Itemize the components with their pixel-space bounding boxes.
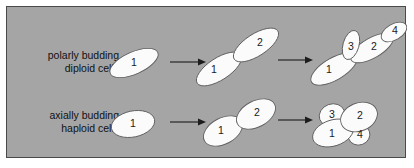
haploid-stage2-cell-2-label: 2 <box>254 106 260 118</box>
haploid-stage3-cell-4-label: 4 <box>357 128 363 140</box>
diploid-stage2: 1 2 <box>191 22 284 93</box>
diploid-arrow-1-head <box>198 59 206 66</box>
haploid-stage1-cell-1: 1 <box>109 107 157 142</box>
figure-panel: polarly budding diploid cells axially bu… <box>6 6 406 158</box>
haploid-stage3: 3 1 2 4 <box>309 97 382 152</box>
diploid-stage3: 1 2 3 4 <box>306 18 407 91</box>
diploid-stage2-cell-1-label: 1 <box>211 63 217 75</box>
diploid-stage3-cell-3-label: 3 <box>348 40 354 52</box>
haploid-arrow-1 <box>170 119 206 126</box>
haploid-stage3-cell-1-label: 1 <box>329 127 335 139</box>
diploid-stage2-cell-2-body <box>228 22 284 69</box>
diploid-stage1-cell-1: 1 <box>106 42 162 83</box>
diploid-arrow-2 <box>278 57 313 64</box>
haploid-stage2: 1 2 <box>198 93 280 153</box>
diagram-canvas: 1 1 2 1 2 <box>7 7 407 159</box>
diploid-arrow-1 <box>170 59 206 66</box>
diploid-stage3-cell-2-label: 2 <box>371 40 377 52</box>
haploid-stage2-cell-1-label: 1 <box>218 124 224 136</box>
diploid-stage3-cell-4-label: 4 <box>392 24 398 36</box>
haploid-arrow-1-head <box>198 119 206 126</box>
haploid-stage3-cell-3-label: 3 <box>329 108 335 120</box>
diploid-stage3-cell-1-label: 1 <box>326 63 332 75</box>
haploid-arrow-2-head <box>305 117 313 124</box>
diploid-stage2-cell-2-label: 2 <box>257 36 263 48</box>
haploid-stage3-cell-2-label: 2 <box>357 109 363 121</box>
diploid-stage1-cell-1-label: 1 <box>131 56 137 68</box>
diploid-arrow-2-head <box>305 57 313 64</box>
haploid-stage1-cell-1-label: 1 <box>130 117 136 129</box>
haploid-arrow-2 <box>278 117 313 124</box>
